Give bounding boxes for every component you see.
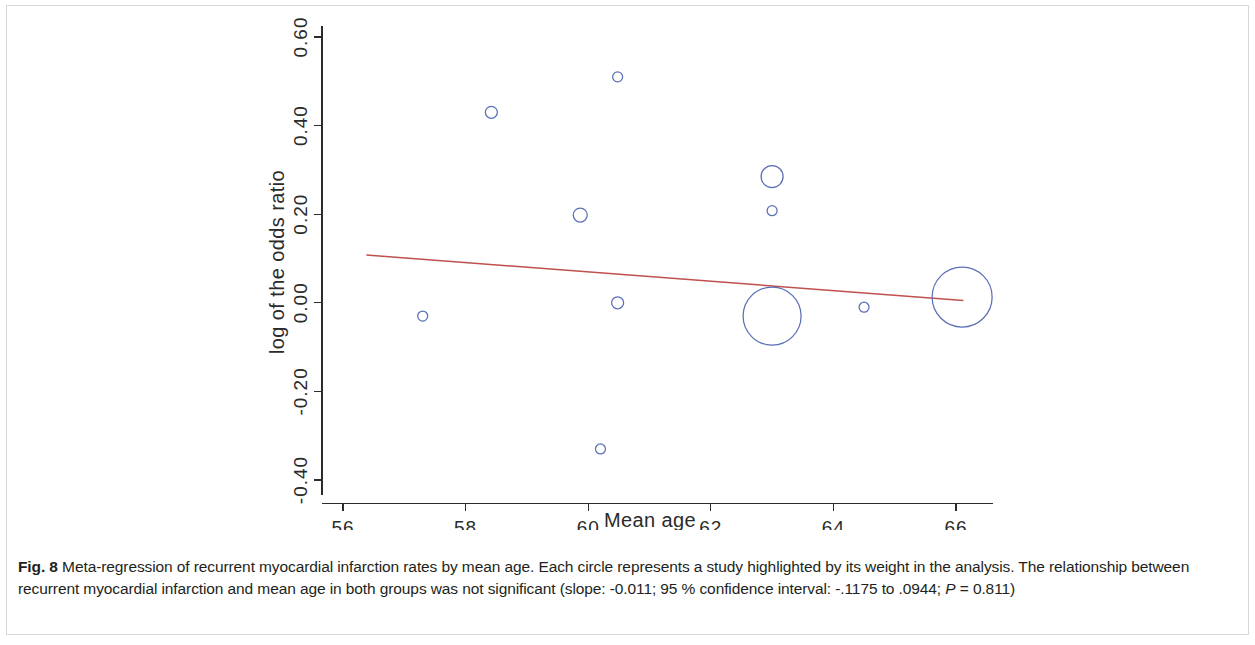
study-bubble: [932, 267, 992, 327]
x-tick-label: 64: [822, 517, 845, 530]
regression-line: [366, 255, 963, 301]
study-bubble: [595, 444, 605, 454]
caption-text-2: = 0.811): [956, 580, 1016, 597]
bubble-markers: [418, 72, 992, 454]
x-tick-label: 56: [331, 517, 354, 530]
x-tick-label: 60: [577, 517, 600, 530]
study-bubble: [573, 208, 587, 222]
study-bubble: [613, 72, 623, 82]
study-bubble: [485, 106, 497, 118]
x-tick-label: 66: [944, 517, 967, 530]
study-bubble: [612, 297, 624, 309]
y-tick-label: 0.60: [290, 17, 311, 58]
y-tick-label: 0.20: [290, 194, 311, 235]
x-axis-title: Mean age: [604, 509, 696, 530]
regression-trend-line: [366, 255, 963, 301]
figure-caption: Fig. 8 Meta-regression of recurrent myoc…: [18, 556, 1233, 600]
plot-canvas: 0.600.400.200.00-0.20-0.40 565860626466 …: [0, 0, 1255, 530]
caption-p-symbol: P: [945, 580, 955, 597]
y-axis-title: log of the odds ratio: [266, 170, 288, 354]
study-bubble: [859, 302, 869, 312]
study-bubble: [418, 311, 428, 321]
y-tick-label: 0.40: [290, 105, 311, 146]
y-tick-label: -0.20: [290, 367, 311, 415]
figure-panel: 0.600.400.200.00-0.20-0.40 565860626466 …: [0, 0, 1255, 645]
scatter-plot: 0.600.400.200.00-0.20-0.40 565860626466 …: [0, 0, 1255, 530]
x-tick-label: 58: [454, 517, 477, 530]
figure-number: Fig. 8: [18, 558, 58, 575]
study-bubble: [743, 287, 801, 345]
x-tick-label: 62: [699, 517, 722, 530]
study-bubble: [761, 166, 783, 188]
y-tick-label: 0.00: [290, 282, 311, 323]
study-bubble: [767, 206, 777, 216]
y-tick-label: -0.40: [290, 456, 311, 504]
y-axis: 0.600.400.200.00-0.20-0.40: [290, 17, 322, 505]
